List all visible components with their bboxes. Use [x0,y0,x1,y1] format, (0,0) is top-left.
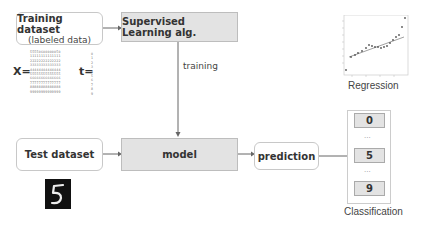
prediction-label: prediction [258,151,316,162]
regression-plot [340,15,410,79]
training-edge-label: training [183,61,218,71]
digit-five-glyph [45,179,71,209]
arrow-supervised-to-model [174,42,182,138]
prediction-node: prediction [254,142,319,170]
regression-caption: Regression [348,80,399,91]
mnist-digit-image [45,179,71,209]
model-label: model [162,149,197,160]
training-dataset-title: Training dataset [17,13,102,35]
training-dataset-subtitle: (labeled data) [28,35,91,45]
test-dataset-node: Test dataset [16,138,103,171]
x-digit-grid: 55550600000050 11111111111111 2222222222… [30,50,61,94]
x-label: X= [13,65,31,78]
test-dataset-label: Test dataset [25,149,94,160]
classification-caption: Classification [344,206,403,217]
class-box-5: 5 [354,148,385,163]
class-box-0: 0 [354,113,385,128]
class-ellipsis-1: ... [364,132,371,140]
supervised-learning-node: Supervised Learning alg. [121,12,238,42]
class-box-9: 9 [354,181,385,196]
model-node: model [121,138,238,171]
class-ellipsis-2: ... [364,166,371,174]
arrow-training-to-supervised [103,24,123,32]
t-label-column: 0 1 2 3 4 5 6 7 8 9 [91,52,93,96]
training-dataset-node: Training dataset (labeled data) [16,12,103,45]
arrow-test-to-model [103,150,123,158]
supervised-learning-label: Supervised Learning alg. [122,16,237,38]
